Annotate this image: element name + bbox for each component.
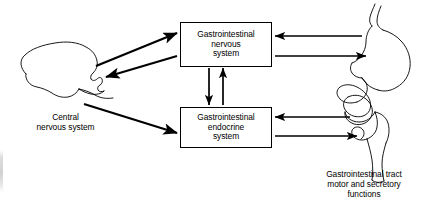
node-gi-endocrine-system-line-3: system xyxy=(213,132,239,142)
label-gi-tract-functions-line-1: Gastrointestinal tract xyxy=(300,169,428,179)
arrow-gi-nervous-to-brain xyxy=(106,56,177,77)
diagram-canvas: Gastrointestinal nervous system Gastroin… xyxy=(0,0,429,205)
gi-tract-illustration xyxy=(337,4,410,182)
label-central-nervous-system: Central nervous system xyxy=(8,112,123,132)
node-gi-endocrine-system: Gastrointestinal endocrine system xyxy=(180,107,272,148)
node-gi-nervous-system-line-3: system xyxy=(213,49,239,59)
label-gi-tract-functions: Gastrointestinal tract motor and secreto… xyxy=(300,169,428,199)
node-gi-nervous-system: Gastrointestinal nervous system xyxy=(180,22,272,67)
brain-illustration xyxy=(21,42,113,98)
arrow-brain-to-gi-nervous xyxy=(96,33,177,66)
label-central-nervous-system-line-2: nervous system xyxy=(8,122,123,132)
label-central-nervous-system-line-1: Central xyxy=(8,112,123,122)
label-gi-tract-functions-line-2: motor and secretory xyxy=(300,179,428,189)
scan-edge-artifact xyxy=(0,150,3,192)
label-gi-tract-functions-line-3: functions xyxy=(300,189,428,199)
